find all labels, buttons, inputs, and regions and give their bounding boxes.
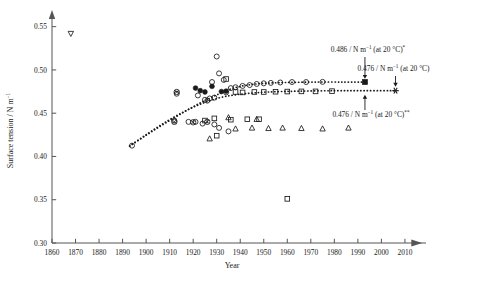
y-axis-title: Surface tension / N m−1 <box>5 92 15 168</box>
scatter-plot-canvas: 1860187018801890190019101920193019401950… <box>0 0 500 290</box>
annotation-middle: 0.476 / N m−1 (at 20 °C) <box>358 63 430 73</box>
data-point-open-triangle-up <box>299 125 304 130</box>
data-point-filled-square <box>362 79 367 84</box>
y-axis-tick-label: 0.55 <box>34 22 47 31</box>
annotation-lower: 0.476 / N m−1 (at 20 °C)** <box>332 109 410 119</box>
x-axis-arrowhead <box>411 240 422 247</box>
data-point-open-triangle-up <box>266 125 271 130</box>
x-axis-tick-label: 1860 <box>45 248 60 257</box>
data-point-open-circle <box>217 125 222 130</box>
x-axis-tick-label: 1970 <box>303 248 318 257</box>
data-point-open-triangle-up <box>249 125 254 130</box>
y-axis-tick-label: 0.50 <box>34 66 47 75</box>
data-point-open-square <box>252 90 257 95</box>
data-point-open-triangle-up <box>346 125 351 130</box>
chart-figure: 1860187018801890190019101920193019401950… <box>0 0 500 290</box>
x-axis-tick-label: 1980 <box>327 248 342 257</box>
data-point-open-triangle-up <box>233 126 238 131</box>
x-axis-tick-label: 1950 <box>256 248 271 257</box>
x-axis-tick-label: 1920 <box>186 248 201 257</box>
data-point-open-circle <box>212 122 217 127</box>
data-point-open-triangle-down <box>68 31 73 36</box>
y-axis-tick-label: 0.30 <box>34 239 47 248</box>
data-point-filled-circle <box>219 89 224 94</box>
data-point-open-circle <box>226 129 231 134</box>
x-axis-tick-label: 1960 <box>280 248 295 257</box>
x-axis-tick-label: 1870 <box>68 248 83 257</box>
data-point-open-circle <box>217 71 222 76</box>
data-point-open-square <box>245 117 250 122</box>
x-axis-tick-label: 2000 <box>374 248 389 257</box>
data-point-filled-circle <box>203 90 208 95</box>
data-point-filled-circle <box>193 86 198 91</box>
annotation-middle-arrowhead <box>393 83 397 87</box>
x-axis-tick-label: 1880 <box>92 248 107 257</box>
annotation-lower-arrowhead <box>363 95 367 99</box>
data-point-open-triangle-up <box>207 136 212 141</box>
data-point-open-square <box>214 133 219 138</box>
data-point-open-square <box>233 90 238 95</box>
annotation-upper: 0.486 / N m−1 (at 20 °C)* <box>331 44 406 54</box>
y-axis-arrowhead <box>49 10 55 19</box>
y-axis-tick-label: 0.45 <box>34 109 47 118</box>
x-axis-tick-label: 1890 <box>115 248 130 257</box>
data-point-open-square <box>285 197 290 202</box>
data-point-open-square <box>212 116 217 121</box>
x-axis-tick-label: 2010 <box>398 248 413 257</box>
data-point-open-triangle-up <box>320 126 325 131</box>
x-axis-tick-label: 1910 <box>162 248 177 257</box>
x-axis-title: Year <box>225 261 240 270</box>
x-axis-tick-label: 1990 <box>350 248 365 257</box>
x-axis-tick-label: 1900 <box>139 248 154 257</box>
annotation-upper-arrowhead <box>363 75 367 79</box>
x-axis-tick-label: 1940 <box>233 248 248 257</box>
data-point-open-circle <box>214 54 219 59</box>
data-point-open-triangle-up <box>280 125 285 130</box>
data-point-filled-circle <box>224 89 229 94</box>
y-axis-tick-label: 0.40 <box>34 152 47 161</box>
data-point-filled-circle <box>198 88 203 93</box>
y-axis-tick-label: 0.35 <box>34 195 47 204</box>
data-point-open-circle <box>195 93 200 98</box>
x-axis-tick-label: 1930 <box>209 248 224 257</box>
data-point-filled-circle <box>210 84 215 89</box>
